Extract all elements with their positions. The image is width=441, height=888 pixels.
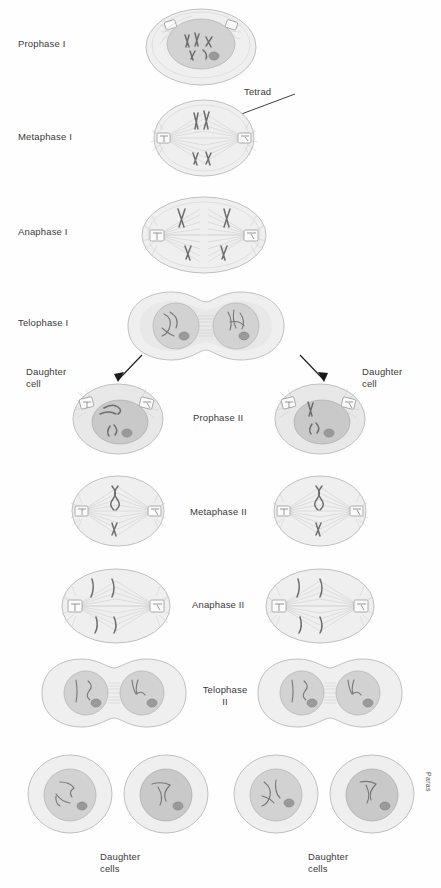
cell-anaphase-1 <box>138 193 270 277</box>
label-daughter-cell-left: Daughter cell <box>26 366 66 390</box>
daughter-cell-4 <box>328 752 416 836</box>
cell-telophase-2-right <box>254 653 406 733</box>
cell-prophase-2-right <box>272 378 368 456</box>
cell-anaphase-2-left <box>58 565 174 647</box>
cell-metaphase-2-left <box>68 473 168 549</box>
label-daughter-cell-right: Daughter cell <box>362 366 402 390</box>
label-prophase-1: Prophase I <box>18 38 65 50</box>
credit-text: Paras <box>425 772 432 792</box>
label-anaphase-1: Anaphase I <box>18 226 68 238</box>
label-metaphase-1: Metaphase I <box>18 131 72 143</box>
label-telophase-1: Telophase I <box>18 317 68 329</box>
cell-metaphase-2-right <box>270 473 370 549</box>
daughter-cell-2 <box>122 752 210 836</box>
label-anaphase-2: Anaphase II <box>192 599 244 611</box>
daughter-cell-3 <box>232 752 320 836</box>
label-metaphase-2: Metaphase II <box>190 506 247 518</box>
label-telophase-2: Telophase II <box>197 684 253 708</box>
cell-metaphase-1 <box>148 97 260 179</box>
meiosis-diagram: Prophase I <box>0 0 441 888</box>
label-prophase-2: Prophase II <box>193 412 243 424</box>
cell-telophase-2-left <box>38 653 190 733</box>
cell-prophase-2-left <box>70 378 166 456</box>
cell-anaphase-2-right <box>262 565 378 647</box>
daughter-cell-1 <box>26 752 114 836</box>
label-daughter-cells-left: Daughter cells <box>100 851 140 875</box>
label-daughter-cells-right: Daughter cells <box>308 851 348 875</box>
cell-prophase-1 <box>142 4 260 88</box>
